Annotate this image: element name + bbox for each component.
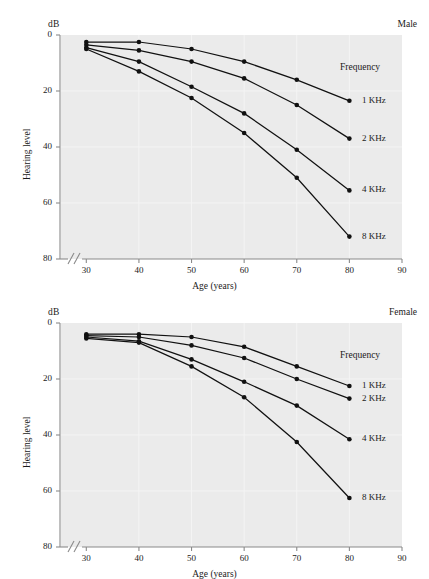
- data-point: [294, 148, 299, 153]
- data-point: [189, 59, 194, 64]
- x-axis-label: Age (years): [0, 569, 429, 579]
- y-tick-label: 0: [30, 29, 52, 39]
- y-tick-label: 20: [30, 373, 52, 383]
- plot-canvas: [0, 288, 429, 575]
- data-point: [347, 234, 352, 239]
- x-tick-label: 70: [284, 553, 310, 563]
- y-axis-unit-label: dB: [48, 19, 60, 29]
- data-point: [189, 96, 194, 101]
- x-tick-label: 80: [336, 265, 362, 275]
- data-point: [189, 335, 194, 340]
- legend-entry-2-khz[interactable]: 2 KHz: [362, 393, 386, 403]
- y-tick-label: 40: [30, 141, 52, 151]
- y-axis-label: Hearing level: [22, 129, 32, 180]
- legend-title: Frequency: [340, 62, 380, 72]
- legend-entry-4-khz[interactable]: 4 KHz: [362, 184, 386, 194]
- data-point: [347, 188, 352, 193]
- y-tick-label: 80: [30, 541, 52, 551]
- legend-entry-4-khz[interactable]: 4 KHz: [362, 433, 386, 443]
- y-tick-label: 60: [30, 197, 52, 207]
- data-point: [189, 364, 194, 369]
- x-tick-label: 40: [126, 553, 152, 563]
- x-tick-label: 60: [231, 265, 257, 275]
- x-tick-label: 50: [179, 553, 205, 563]
- x-tick-label: 90: [389, 265, 415, 275]
- data-point: [347, 384, 352, 389]
- x-tick-label: 30: [73, 265, 99, 275]
- data-point: [294, 78, 299, 83]
- data-point: [137, 335, 142, 340]
- data-point: [347, 136, 352, 141]
- data-point: [347, 496, 352, 501]
- data-point: [347, 99, 352, 104]
- x-tick-label: 80: [336, 553, 362, 563]
- legend-title: Frequency: [340, 350, 380, 360]
- plot-canvas: [0, 0, 429, 287]
- data-point: [137, 69, 142, 74]
- data-point: [294, 103, 299, 108]
- y-tick-label: 20: [30, 85, 52, 95]
- data-point: [137, 340, 142, 345]
- data-point: [242, 380, 247, 385]
- data-point: [294, 364, 299, 369]
- y-tick-label: 80: [30, 253, 52, 263]
- data-point: [137, 59, 142, 64]
- y-tick-label: 0: [30, 317, 52, 327]
- legend-entry-1-khz[interactable]: 1 KHz: [362, 380, 386, 390]
- y-axis-label: Hearing level: [22, 417, 32, 468]
- data-point: [137, 48, 142, 53]
- x-tick-label: 70: [284, 265, 310, 275]
- data-point: [294, 403, 299, 408]
- y-tick-label: 60: [30, 485, 52, 495]
- data-point: [137, 40, 142, 45]
- x-tick-label: 50: [179, 265, 205, 275]
- panel-inner-female: dBFemaleHearing levelAge (years)02040608…: [0, 288, 429, 575]
- x-tick-label: 30: [73, 553, 99, 563]
- data-point: [242, 111, 247, 116]
- data-point: [84, 336, 89, 341]
- x-tick-label: 40: [126, 265, 152, 275]
- y-tick-label: 40: [30, 429, 52, 439]
- legend-entry-1-khz[interactable]: 1 KHz: [362, 95, 386, 105]
- data-point: [242, 76, 247, 81]
- legend-entry-8-khz[interactable]: 8 KHz: [362, 492, 386, 502]
- data-point: [242, 356, 247, 361]
- data-point: [242, 131, 247, 136]
- data-point: [189, 343, 194, 348]
- chart-panel-female: dBFemaleHearing levelAge (years)02040608…: [0, 288, 429, 575]
- data-point: [294, 440, 299, 445]
- data-point: [189, 47, 194, 52]
- panel-title-male: Male: [397, 19, 417, 29]
- data-point: [294, 377, 299, 382]
- legend-entry-2-khz[interactable]: 2 KHz: [362, 133, 386, 143]
- x-tick-label: 60: [231, 553, 257, 563]
- data-point: [294, 176, 299, 181]
- data-point: [242, 395, 247, 400]
- x-tick-label: 90: [389, 553, 415, 563]
- data-point: [242, 345, 247, 350]
- data-point: [347, 396, 352, 401]
- y-axis-unit-label: dB: [48, 307, 60, 317]
- data-point: [189, 85, 194, 90]
- chart-panel-male: dBMaleHearing levelAge (years)0204060803…: [0, 0, 429, 287]
- legend-entry-8-khz[interactable]: 8 KHz: [362, 231, 386, 241]
- data-point: [242, 59, 247, 64]
- data-point: [84, 47, 89, 52]
- panel-title-female: Female: [389, 307, 417, 317]
- data-point: [347, 437, 352, 442]
- panel-inner-male: dBMaleHearing levelAge (years)0204060803…: [0, 0, 429, 287]
- data-point: [189, 357, 194, 362]
